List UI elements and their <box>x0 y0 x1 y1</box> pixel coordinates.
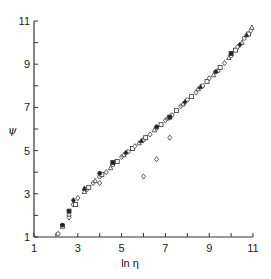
y-axis-title: ψ <box>8 124 17 137</box>
x-tick-label: 11 <box>247 242 258 254</box>
y-tick-label: 9 <box>24 58 30 70</box>
data-points <box>56 25 254 236</box>
data-point <box>111 160 115 164</box>
data-point <box>174 109 178 113</box>
x-tick-label: 5 <box>119 242 125 254</box>
y-tick-label: 3 <box>24 188 30 200</box>
data-point <box>67 209 71 213</box>
y-tick-label: 11 <box>19 15 30 27</box>
data-point <box>87 185 91 189</box>
x-tick-label: 9 <box>206 242 212 254</box>
data-point <box>76 196 80 201</box>
data-point <box>115 159 119 163</box>
data-point <box>93 178 97 182</box>
data-point <box>155 125 159 129</box>
data-point <box>98 171 102 175</box>
data-point <box>155 157 159 162</box>
axes: 13579111357911 <box>19 15 259 254</box>
data-point <box>104 170 108 175</box>
data-point <box>60 223 64 227</box>
y-tick-label: 1 <box>24 231 30 243</box>
x-tick-label: 7 <box>162 242 168 254</box>
data-point <box>71 198 75 203</box>
data-point <box>214 70 218 74</box>
data-point <box>142 174 146 179</box>
data-point <box>148 132 152 137</box>
data-point <box>218 65 222 69</box>
data-point <box>250 25 254 29</box>
data-point <box>168 115 172 119</box>
y-tick-label: 5 <box>24 145 30 157</box>
scatter-chart: 13579111357911 ψ ln η <box>0 0 271 279</box>
data-point <box>98 180 102 185</box>
data-point <box>56 232 60 236</box>
data-point <box>74 203 78 207</box>
x-tick-label: 1 <box>31 242 37 254</box>
data-point <box>82 186 86 190</box>
data-point <box>168 135 172 140</box>
y-tick-label: 7 <box>24 101 30 113</box>
x-axis-title: ln η <box>121 257 139 269</box>
data-point <box>223 61 227 66</box>
x-tick-label: 3 <box>75 242 81 254</box>
data-point <box>190 95 194 99</box>
data-point <box>159 123 163 127</box>
data-point <box>229 51 233 55</box>
data-point <box>144 136 148 140</box>
